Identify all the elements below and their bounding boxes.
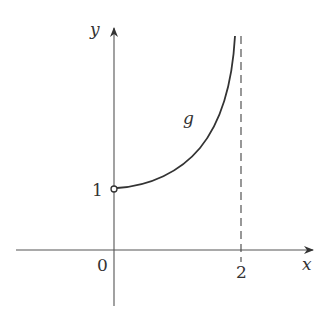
x-axis-label: x — [302, 256, 312, 273]
curve-g — [117, 36, 235, 188]
origin-label: 0 — [97, 257, 108, 274]
plot-area — [0, 0, 330, 310]
y-axis-label: y — [90, 21, 100, 38]
y-tick-1-label: 1 — [92, 182, 103, 199]
x-tick-2-label: 2 — [236, 264, 247, 281]
open-circle-point — [111, 186, 117, 192]
graph-of-g: y x 0 2 1 g — [0, 0, 330, 310]
curve-g-label: g — [183, 110, 194, 127]
